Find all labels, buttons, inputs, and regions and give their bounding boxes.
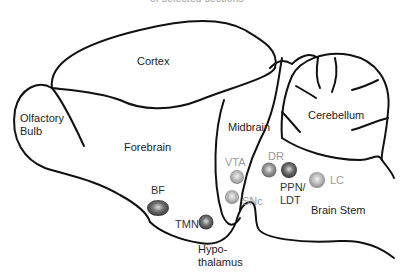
nucleus-ppn-ldt xyxy=(281,162,297,178)
nucleus-bf xyxy=(147,200,169,216)
label-cortex: Cortex xyxy=(137,55,169,68)
nucleus-lc xyxy=(309,172,325,188)
cerebellum-fold-2 xyxy=(332,58,336,92)
cerebellum-fold-6 xyxy=(282,112,300,132)
label-olfactory-line1: Olfactory xyxy=(20,112,64,125)
cerebellum-fold-1 xyxy=(317,58,320,88)
label-olfactory-bulb: Olfactory Bulb xyxy=(20,112,64,138)
cerebellum-fold-3 xyxy=(296,86,316,98)
brain-diagram xyxy=(0,0,410,280)
label-ppn-line2: LDT xyxy=(280,194,306,207)
label-hypothalamus: Hypo- thalamus xyxy=(198,243,243,269)
label-forebrain: Forebrain xyxy=(124,141,171,154)
label-ppn-ldt: PPN/ LDT xyxy=(280,181,306,207)
label-snc: SNc xyxy=(242,195,263,208)
label-lc: LC xyxy=(330,174,344,187)
nucleus-vta xyxy=(230,170,244,184)
label-dr: DR xyxy=(268,150,284,163)
label-hypothalamus-line1: Hypo- xyxy=(198,243,243,256)
nucleus-snc xyxy=(225,190,239,204)
label-olfactory-line2: Bulb xyxy=(20,125,64,138)
midbrain-right-boundary xyxy=(240,58,282,210)
label-vta: VTA xyxy=(225,156,246,169)
nucleus-tmn xyxy=(199,215,214,230)
nucleus-dr xyxy=(262,163,277,178)
label-tmn: TMN xyxy=(175,218,199,231)
label-ppn-line1: PPN/ xyxy=(280,181,306,194)
cerebellum-left-arc xyxy=(282,76,292,138)
label-brain-stem: Brain Stem xyxy=(311,204,365,217)
label-cerebellum: Cerebellum xyxy=(308,109,364,122)
label-bf: BF xyxy=(151,184,165,197)
label-hypothalamus-line2: thalamus xyxy=(198,256,243,269)
cerebellum-outline xyxy=(292,54,389,160)
junction-curve xyxy=(270,55,318,68)
cerebellum-lower xyxy=(282,138,394,178)
label-midbrain: Midbrain xyxy=(228,121,270,134)
cerebellum-fold-4 xyxy=(352,80,378,90)
